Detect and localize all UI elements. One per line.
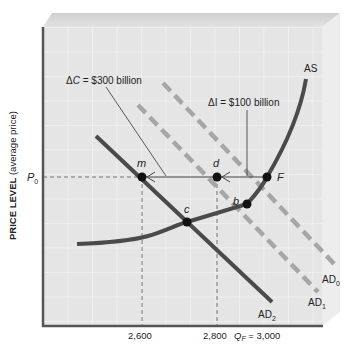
x-tick-qf: QF = 3,000 bbox=[234, 330, 280, 342]
point-f bbox=[263, 173, 272, 182]
point-m bbox=[138, 173, 147, 182]
label-as: AS bbox=[304, 63, 318, 74]
label-b: b bbox=[233, 195, 239, 207]
label-m: m bbox=[137, 157, 146, 169]
aggregate-demand-supply-chart: m d F b c AS AD0 AD1 AD2 ΔC = $300 billi… bbox=[0, 0, 360, 350]
annotation-delta-i: ΔI = $100 billion bbox=[208, 97, 279, 108]
y-tick-p0: P0 bbox=[27, 171, 38, 185]
point-b bbox=[243, 200, 252, 209]
annotation-delta-c: ΔC = $300 billion bbox=[66, 75, 142, 86]
label-c: c bbox=[184, 203, 190, 215]
y-axis-title: PRICE LEVEL (average price) bbox=[7, 111, 18, 240]
x-tick-2800: 2,800 bbox=[203, 330, 227, 341]
point-c bbox=[183, 218, 192, 227]
x-tick-2600: 2,600 bbox=[128, 330, 152, 341]
bevel-top bbox=[43, 13, 340, 27]
point-d bbox=[213, 173, 222, 182]
label-d: d bbox=[213, 157, 220, 169]
